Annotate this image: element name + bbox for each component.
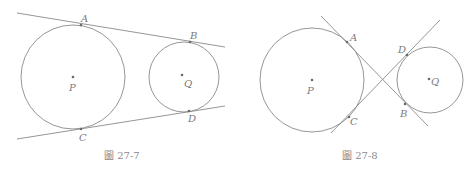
tangent-point-b xyxy=(404,103,407,106)
label-p: P xyxy=(306,85,314,96)
label-d: D xyxy=(187,113,196,124)
label-c: C xyxy=(350,116,358,127)
tangent-point-a xyxy=(80,24,83,27)
center-point-q xyxy=(181,74,184,77)
diagram-canvas: P Q A B C D 圖 27-7 P Q A B C D 圖 27-8 xyxy=(0,0,476,169)
circle-q xyxy=(149,42,219,112)
center-point-q xyxy=(428,78,431,81)
label-q: Q xyxy=(431,76,439,87)
tangent-point-b xyxy=(189,41,192,44)
label-b: B xyxy=(189,30,197,41)
figure-27-8: P Q A B C D 圖 27-8 xyxy=(260,16,463,161)
center-point-p xyxy=(311,79,314,82)
label-p: P xyxy=(68,82,76,93)
figure-caption: 圖 27-7 xyxy=(104,150,140,161)
label-c: C xyxy=(79,132,87,143)
figure-caption: 圖 27-8 xyxy=(342,150,378,161)
circle-q xyxy=(397,47,463,113)
label-a: A xyxy=(349,32,357,43)
center-point-p xyxy=(72,76,75,79)
tangent-point-d xyxy=(188,110,191,113)
tangent-point-c xyxy=(80,128,83,131)
label-d: D xyxy=(397,44,406,55)
tangent-line-ab xyxy=(321,16,428,126)
label-a: A xyxy=(80,13,88,24)
tangent-point-a xyxy=(346,41,349,44)
figure-27-7: P Q A B C D 圖 27-7 xyxy=(17,13,225,161)
tangent-point-d xyxy=(406,54,409,57)
label-b: B xyxy=(399,108,407,119)
tangent-line-cd xyxy=(331,20,440,133)
label-q: Q xyxy=(184,78,192,89)
